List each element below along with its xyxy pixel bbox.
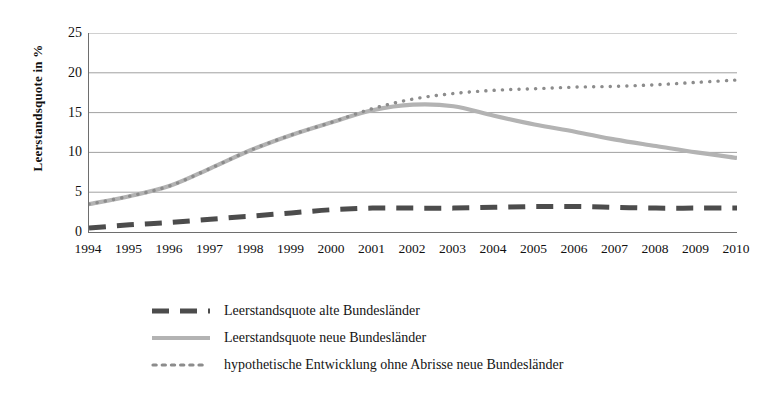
y-axis-tick-labels: 25 20 15 10 5 0 — [48, 25, 82, 240]
x-tick-label: 1997 — [187, 241, 233, 257]
chart-figure: Leerstandsquote in % 25 20 15 10 5 0 199… — [0, 0, 773, 401]
legend-item-hypothetische-entwicklung: hypothetische Entwicklung ohne Abrisse n… — [150, 351, 750, 378]
solid-line-swatch — [150, 331, 212, 345]
y-tick-label: 25 — [48, 26, 82, 40]
x-tick-label: 1999 — [268, 241, 314, 257]
series-line — [89, 104, 737, 204]
x-tick-label: 2001 — [349, 241, 395, 257]
legend-label: hypothetische Entwicklung ohne Abrisse n… — [224, 357, 563, 373]
x-tick-label: 2007 — [592, 241, 638, 257]
chart-legend: Leerstandsquote alte Bundesländer Leerst… — [150, 297, 750, 378]
y-tick-label: 20 — [48, 66, 82, 80]
x-tick-label: 2009 — [673, 241, 719, 257]
x-tick-label: 2000 — [308, 241, 354, 257]
x-tick-label: 2006 — [551, 241, 597, 257]
legend-item-neue-bundeslaender: Leerstandsquote neue Bundesländer — [150, 324, 750, 351]
x-tick-label: 2002 — [389, 241, 435, 257]
y-tick-label: 10 — [48, 145, 82, 159]
plot-area — [88, 33, 737, 233]
legend-label: Leerstandsquote alte Bundesländer — [224, 303, 420, 319]
series-line — [89, 206, 737, 228]
y-tick-label: 15 — [48, 106, 82, 120]
y-tick-label: 0 — [48, 225, 82, 239]
dotted-line-swatch — [150, 358, 212, 372]
x-tick-label: 2005 — [511, 241, 557, 257]
y-tick-label: 5 — [48, 185, 82, 199]
dashed-line-swatch — [150, 304, 212, 318]
chart-canvas — [89, 33, 737, 232]
y-axis-title: Leerstandsquote in % — [30, 8, 46, 208]
x-tick-label: 2008 — [632, 241, 678, 257]
x-tick-label: 1994 — [65, 241, 111, 257]
x-tick-label: 1996 — [146, 241, 192, 257]
x-tick-label: 2003 — [430, 241, 476, 257]
x-axis-tick-labels: 1994199519961997199819992000200120022003… — [88, 241, 736, 263]
x-tick-label: 1995 — [106, 241, 152, 257]
series-lines — [89, 80, 737, 228]
gridlines — [89, 33, 737, 192]
x-tick-label: 2004 — [470, 241, 516, 257]
x-tick-label: 1998 — [227, 241, 273, 257]
legend-item-alte-bundeslaender: Leerstandsquote alte Bundesländer — [150, 297, 750, 324]
legend-label: Leerstandsquote neue Bundesländer — [224, 330, 426, 346]
x-tick-label: 2010 — [713, 241, 759, 257]
